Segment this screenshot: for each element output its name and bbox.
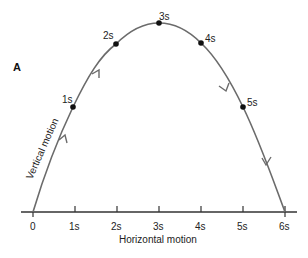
point-label: 1s (62, 94, 73, 105)
direction-arrows (59, 70, 271, 165)
arrow-down-icon (219, 83, 229, 91)
tick-label: 0 (30, 221, 36, 232)
tick-label: 2s (111, 221, 122, 232)
point-1s (70, 104, 76, 110)
tick-label: 6s (279, 221, 290, 232)
point-label: 3s (159, 11, 170, 22)
projectile-motion-diagram: A 0 1s 2s 3s 4s 5s 6s Horizontal motion (0, 0, 308, 258)
panel-label: A (13, 61, 21, 73)
tick-label: 3s (153, 221, 164, 232)
tick-label: 1s (69, 221, 80, 232)
tick-label: 5s (237, 221, 248, 232)
point-label: 5s (247, 97, 258, 108)
point-label: 2s (103, 30, 114, 41)
point-label: 4s (205, 33, 216, 44)
x-tick-labels: 0 1s 2s 3s 4s 5s 6s (30, 221, 290, 232)
point-2s (113, 41, 119, 47)
point-4s (198, 40, 204, 46)
trajectory-curve (33, 23, 285, 212)
x-axis-label: Horizontal motion (119, 234, 197, 245)
tick-label: 4s (195, 221, 206, 232)
point-5s (240, 104, 246, 110)
